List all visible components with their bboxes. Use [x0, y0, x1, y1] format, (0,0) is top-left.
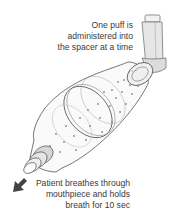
label-line: breath for 10 sec	[36, 200, 130, 211]
label-line: Patient breathes through	[36, 178, 130, 189]
inhaler-spacer-diagram: One puff is administered into the spacer…	[0, 0, 177, 224]
label-line: One puff is	[58, 20, 133, 31]
label-line: the spacer at a time	[58, 42, 133, 53]
label-line: mouthpiece and holds	[36, 189, 130, 200]
airflow-arrow-icon	[13, 178, 27, 192]
breathing-instruction-label: Patient breathes through mouthpiece and …	[36, 178, 130, 211]
label-line: administered into	[58, 31, 133, 42]
puff-instruction-label: One puff is administered into the spacer…	[58, 20, 133, 53]
